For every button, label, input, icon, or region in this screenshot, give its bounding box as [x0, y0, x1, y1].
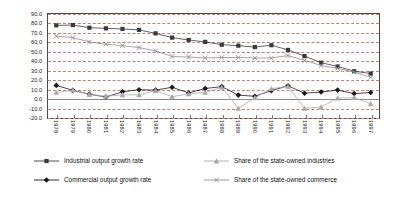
legend-label: Share of the state-owned industries [230, 157, 335, 165]
series-layer [48, 14, 379, 118]
y-tick-label: 90.0 [31, 11, 42, 17]
y-tick-label: -10.0 [29, 106, 42, 112]
x-tick-label: 1995 [335, 120, 341, 133]
legend-label: Share of the state-owned commerce [230, 176, 337, 184]
x-tick-label: 1988 [219, 120, 225, 133]
x-tick-label: 1985 [169, 120, 175, 133]
x-tick-label: 1993 [302, 120, 308, 133]
gridline [48, 118, 379, 119]
y-tick-label: 70.0 [31, 30, 42, 36]
y-tick-label: 60.0 [31, 39, 42, 45]
x-tick-label: 1979 [70, 120, 76, 133]
legend-label: Commercial output growth rate [60, 176, 151, 184]
series-diamond [53, 83, 373, 100]
x-tick-label: 1983 [136, 120, 142, 133]
x-axis: 1978197919801981198219831984198519861987… [47, 120, 380, 146]
x-tick-label: 1997 [368, 120, 374, 133]
x-tick-label: 1987 [202, 120, 208, 133]
x-tick-label: 1981 [103, 120, 109, 133]
legend-marker-triangle [203, 155, 230, 167]
x-tick-label: 1978 [53, 120, 59, 133]
y-tick-label: 50.0 [31, 49, 42, 55]
chart-figure: 90.080.070.060.050.040.030.020.010.00.0-… [0, 0, 403, 202]
x-tick-label: 1990 [252, 120, 258, 133]
legend-item-share-of-the-state-owned-industries[interactable]: Share of the state-owned industries [203, 154, 335, 168]
x-tick-label: 1986 [186, 120, 192, 133]
legend-item-share-of-the-state-owned-commerce[interactable]: Share of the state-owned commerce [203, 173, 337, 187]
y-tick-label: -20.0 [29, 115, 42, 121]
y-tick-label: 30.0 [31, 68, 42, 74]
x-tick-label: 1982 [119, 120, 125, 133]
chart-legend: Industrial output growth rate Commercial… [0, 152, 403, 200]
legend-label: Industrial output growth rate [60, 157, 143, 165]
series-x [54, 34, 373, 80]
legend-marker-x [203, 174, 230, 186]
legend-item-commercial-output-growth-rate[interactable]: Commercial output growth rate [33, 173, 151, 187]
legend-marker-square [33, 155, 60, 167]
x-tick-label: 1991 [268, 120, 274, 133]
series-svg [48, 14, 379, 118]
y-tick-label: 0.0 [34, 96, 42, 102]
x-tick-label: 1980 [86, 120, 92, 133]
legend-marker-diamond [33, 174, 60, 186]
x-tick-label: 1984 [153, 120, 159, 133]
y-axis: 90.080.070.060.050.040.030.020.010.00.0-… [0, 13, 45, 119]
plot-area [47, 13, 380, 119]
legend-item-industrial-output-growth-rate[interactable]: Industrial output growth rate [33, 154, 143, 168]
x-tick-label: 1989 [235, 120, 241, 133]
y-tick-label: 20.0 [31, 77, 42, 83]
y-tick-label: 10.0 [31, 87, 42, 93]
x-tick-label: 1994 [318, 120, 324, 133]
x-tick-label: 1992 [285, 120, 291, 133]
x-tick-label: 1996 [351, 120, 357, 133]
y-tick-label: 40.0 [31, 58, 42, 64]
series-square [54, 23, 373, 76]
y-tick-label: 80.0 [31, 20, 42, 26]
